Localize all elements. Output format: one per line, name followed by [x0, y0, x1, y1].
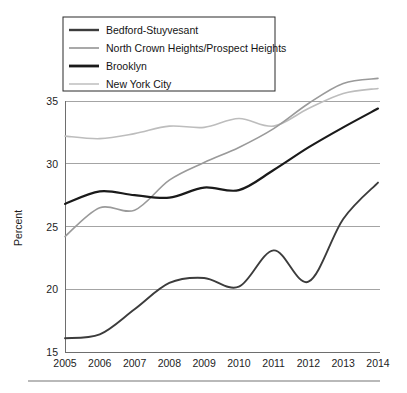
line-chart: 1520253035 20052006200720082009201020112…	[0, 0, 407, 393]
x-tick-label: 2006	[88, 357, 112, 369]
y-tick-labels: 1520253035	[46, 95, 58, 358]
y-tick-label: 20	[46, 283, 58, 295]
x-tick-label: 2012	[297, 357, 321, 369]
x-tick-label: 2007	[123, 357, 147, 369]
x-tick-label: 2011	[262, 357, 285, 369]
x-tick-labels: 2005200620072008200920102011201220132014	[53, 357, 390, 369]
legend-label: New York City	[106, 78, 172, 90]
series-line	[65, 183, 378, 339]
legend-label: North Crown Heights/Prospect Heights	[106, 42, 286, 54]
y-axis-title-text: Percent	[12, 210, 24, 246]
series-lines	[65, 78, 378, 338]
chart-legend: Bedford-StuyvesantNorth Crown Heights/Pr…	[63, 17, 286, 91]
gridlines	[65, 101, 380, 352]
y-tick-label: 25	[46, 221, 58, 233]
legend-label: Brooklyn	[106, 60, 147, 72]
series-line	[65, 88, 378, 138]
x-tick-label: 2005	[53, 357, 77, 369]
x-tick-label: 2014	[366, 357, 390, 369]
y-axis-title: Percent	[12, 210, 24, 246]
x-tick-label: 2009	[192, 357, 216, 369]
x-tick-label: 2010	[227, 357, 251, 369]
legend-label: Bedford-Stuyvesant	[106, 24, 198, 36]
series-line	[65, 78, 378, 236]
chart-figure: 1520253035 20052006200720082009201020112…	[0, 0, 407, 393]
x-tick-label: 2008	[158, 357, 182, 369]
x-tick-label: 2013	[332, 357, 356, 369]
y-tick-label: 30	[46, 158, 58, 170]
y-tick-label: 35	[46, 95, 58, 107]
